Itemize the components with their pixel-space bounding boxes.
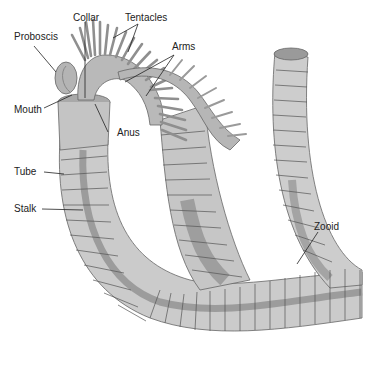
label-mouth: Mouth	[14, 105, 42, 115]
label-tube: Tube	[14, 167, 36, 177]
label-arms: Arms	[172, 42, 195, 52]
organism-illustration	[0, 0, 371, 381]
label-tentacles: Tentacles	[125, 13, 167, 23]
proboscis-shape	[55, 62, 77, 94]
right-tube	[273, 48, 362, 288]
label-collar: Collar	[73, 13, 99, 23]
middle-tube	[160, 105, 250, 290]
label-anus: Anus	[117, 128, 140, 138]
label-proboscis: Proboscis	[14, 32, 58, 42]
label-zooid: Zooid	[314, 222, 339, 232]
label-stalk: Stalk	[14, 204, 36, 214]
